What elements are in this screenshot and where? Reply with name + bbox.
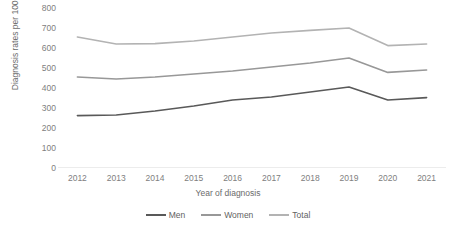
line-chart: Diagnosis rates per 100,000 010020030040… [0,0,456,234]
y-axis-title: Diagnosis rates per 100,000 [8,0,22,110]
legend-label: Total [292,210,310,220]
x-axis-tick-label: 2018 [288,172,332,184]
x-axis-tick-label: 2017 [249,172,293,184]
legend-swatch-icon [201,214,221,216]
chart-legend: MenWomenTotal [0,210,456,220]
y-axis-tick-label: 600 [26,43,56,53]
x-axis-title: Year of diagnosis [0,188,456,198]
x-axis-tick-label: 2014 [133,172,177,184]
y-axis-tick-label: 500 [26,63,56,73]
y-axis-tick-label: 100 [26,143,56,153]
y-axis-tick-label: 400 [26,83,56,93]
legend-label: Women [224,210,253,220]
x-axis-tick-label: 2012 [55,172,99,184]
y-axis-tick-labels: 0100200300400500600700800 [22,0,56,234]
y-axis-tick-label: 800 [26,3,56,13]
x-axis-tick-labels: 2012201320142015201620172018201920202021 [0,172,456,186]
x-axis-tick-label: 2019 [327,172,371,184]
y-axis-tick-label: 200 [26,123,56,133]
legend-swatch-icon [146,214,166,216]
y-axis-tick-label: 300 [26,103,56,113]
legend-label: Men [169,210,186,220]
series-line-women [77,58,426,79]
series-line-total [77,28,426,46]
plot-area [58,8,446,168]
x-axis-tick-label: 2020 [366,172,410,184]
x-axis-tick-label: 2016 [211,172,255,184]
legend-item-women[interactable]: Women [201,210,253,220]
legend-item-total[interactable]: Total [269,210,310,220]
x-axis-tick-label: 2021 [405,172,449,184]
legend-item-men[interactable]: Men [146,210,186,220]
legend-swatch-icon [269,214,289,216]
x-axis-tick-label: 2015 [172,172,216,184]
series-lines [58,8,446,168]
y-axis-tick-label: 700 [26,23,56,33]
series-line-men [77,87,426,116]
x-axis-tick-label: 2013 [94,172,138,184]
